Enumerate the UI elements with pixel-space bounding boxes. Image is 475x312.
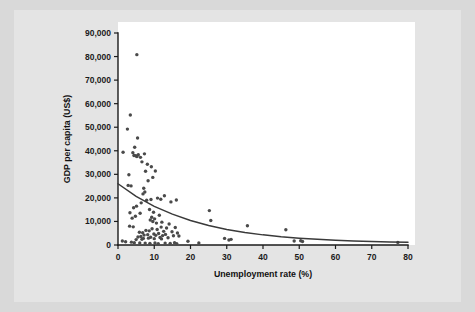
data-point bbox=[151, 176, 154, 179]
data-point bbox=[140, 160, 143, 163]
data-point bbox=[177, 234, 180, 237]
data-point bbox=[146, 163, 149, 166]
data-point bbox=[176, 231, 179, 234]
x-tick-label: 40 bbox=[258, 252, 268, 262]
data-point bbox=[121, 150, 124, 153]
data-point bbox=[146, 233, 149, 236]
x-tick-label: 50 bbox=[295, 252, 305, 262]
data-point bbox=[130, 240, 133, 243]
scatter-chart: 010,00020,00030,00040,00050,00060,00070,… bbox=[0, 0, 475, 312]
y-tick-label: 0 bbox=[106, 240, 111, 250]
axis-tick-marks bbox=[114, 33, 408, 249]
data-point bbox=[140, 201, 143, 204]
data-point bbox=[138, 231, 141, 234]
data-point bbox=[126, 184, 129, 187]
x-axis-title: Unemployment rate (%) bbox=[214, 269, 312, 279]
x-tick-label: 30 bbox=[222, 252, 232, 262]
data-point bbox=[163, 241, 166, 244]
data-point bbox=[159, 225, 162, 228]
y-axis-tick-labels: 010,00020,00030,00040,00050,00060,00070,… bbox=[85, 28, 111, 250]
data-point bbox=[169, 242, 172, 245]
data-point bbox=[172, 234, 175, 237]
data-point bbox=[136, 136, 139, 139]
data-point bbox=[164, 233, 167, 236]
data-point bbox=[208, 209, 211, 212]
data-point bbox=[165, 226, 168, 229]
data-point bbox=[126, 127, 129, 130]
y-tick-label: 10,000 bbox=[85, 216, 111, 226]
data-point bbox=[134, 238, 137, 241]
data-point bbox=[135, 53, 138, 56]
data-point bbox=[156, 196, 159, 199]
data-point bbox=[284, 228, 287, 231]
y-tick-label: 70,000 bbox=[85, 75, 111, 85]
data-point bbox=[197, 241, 200, 244]
x-tick-label: 20 bbox=[186, 252, 196, 262]
data-point bbox=[209, 219, 212, 222]
data-point bbox=[175, 198, 178, 201]
data-point bbox=[138, 241, 141, 244]
data-point bbox=[135, 204, 138, 207]
data-point bbox=[140, 238, 143, 241]
y-tick-label: 90,000 bbox=[85, 28, 111, 38]
y-tick-label: 50,000 bbox=[85, 122, 111, 132]
y-tick-label: 40,000 bbox=[85, 146, 111, 156]
data-point bbox=[128, 211, 131, 214]
data-point bbox=[133, 146, 136, 149]
data-point bbox=[157, 242, 160, 245]
data-point bbox=[155, 228, 158, 231]
data-point bbox=[166, 236, 169, 239]
data-point bbox=[170, 230, 173, 233]
data-point bbox=[153, 241, 156, 244]
data-point bbox=[124, 240, 127, 243]
data-point bbox=[141, 192, 144, 195]
data-point bbox=[163, 194, 166, 197]
x-tick-label: 0 bbox=[116, 252, 121, 262]
data-point bbox=[292, 239, 295, 242]
data-point bbox=[223, 237, 226, 240]
data-point bbox=[160, 220, 163, 223]
data-point bbox=[146, 179, 149, 182]
data-point bbox=[160, 237, 163, 240]
data-point bbox=[246, 224, 249, 227]
data-point bbox=[186, 240, 189, 243]
data-point bbox=[148, 208, 151, 211]
data-point bbox=[152, 211, 155, 214]
data-point bbox=[132, 225, 135, 228]
x-tick-label: 10 bbox=[150, 252, 160, 262]
y-tick-label: 60,000 bbox=[85, 99, 111, 109]
data-point bbox=[227, 238, 230, 241]
y-tick-label: 30,000 bbox=[85, 169, 111, 179]
x-tick-label: 60 bbox=[331, 252, 341, 262]
y-axis-title: GDP per capita (US$) bbox=[62, 95, 72, 183]
data-points bbox=[121, 53, 400, 245]
data-point bbox=[153, 237, 156, 240]
data-point bbox=[154, 234, 157, 237]
data-point bbox=[157, 232, 160, 235]
data-point bbox=[137, 153, 140, 156]
data-point bbox=[150, 227, 153, 230]
data-point bbox=[133, 241, 136, 244]
data-point bbox=[148, 242, 151, 245]
figure-root: 010,00020,00030,00040,00050,00060,00070,… bbox=[0, 0, 475, 312]
data-point bbox=[144, 229, 147, 232]
x-axis-tick-labels: 01020304050607080 bbox=[116, 252, 413, 262]
data-point bbox=[143, 152, 146, 155]
data-point bbox=[130, 216, 133, 219]
data-point bbox=[142, 233, 145, 236]
data-point bbox=[149, 198, 152, 201]
data-point bbox=[121, 239, 124, 242]
data-point bbox=[154, 169, 157, 172]
data-point bbox=[134, 215, 137, 218]
data-point bbox=[147, 229, 150, 232]
data-point bbox=[151, 220, 154, 223]
data-point bbox=[144, 170, 147, 173]
data-point bbox=[167, 222, 170, 225]
y-tick-label: 20,000 bbox=[85, 193, 111, 203]
data-point bbox=[158, 214, 161, 217]
data-point bbox=[169, 200, 172, 203]
data-point bbox=[162, 230, 165, 233]
data-point bbox=[174, 226, 177, 229]
data-point bbox=[138, 212, 141, 215]
x-tick-label: 70 bbox=[367, 252, 377, 262]
